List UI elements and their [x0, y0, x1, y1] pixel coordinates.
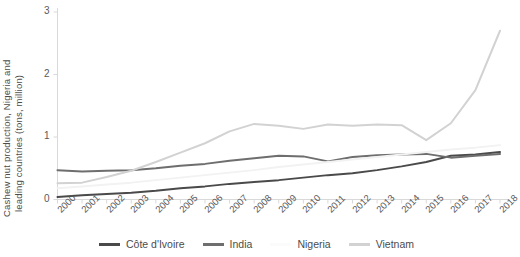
legend-item[interactable]: Vietnam: [349, 238, 414, 250]
chart-legend: Côte d'IvoireIndiaNigeriaVietnam: [0, 234, 513, 254]
legend-swatch-icon: [99, 243, 120, 246]
legend-label: Côte d'Ivoire: [126, 238, 185, 250]
y-axis-title: Cashew nut production, Nigeria and leadi…: [0, 0, 40, 210]
legend-swatch-icon: [203, 243, 224, 246]
legend-item[interactable]: Côte d'Ivoire: [99, 238, 185, 250]
series-line: [58, 145, 501, 188]
legend-swatch-icon: [349, 243, 370, 246]
y-axis-tick-label: 2: [34, 68, 50, 79]
series-layer: [58, 31, 501, 197]
y-axis-tick-label: 1: [34, 130, 50, 141]
series-line: [58, 152, 501, 197]
y-axis-tick-label: 3: [34, 5, 50, 16]
legend-item[interactable]: India: [203, 238, 253, 250]
legend-label: Nigeria: [297, 238, 330, 250]
y-axis-title-line-1: Cashew nut production, Nigeria and: [1, 7, 13, 217]
legend-label: Vietnam: [376, 238, 414, 250]
y-axis-title-line-2: leading countries (tons, million): [13, 2, 25, 212]
legend-label: India: [230, 238, 253, 250]
legend-item[interactable]: Nigeria: [270, 238, 330, 250]
y-axis-tick-label: 0: [34, 193, 50, 204]
series-line: [58, 154, 501, 172]
legend-swatch-icon: [270, 243, 291, 246]
